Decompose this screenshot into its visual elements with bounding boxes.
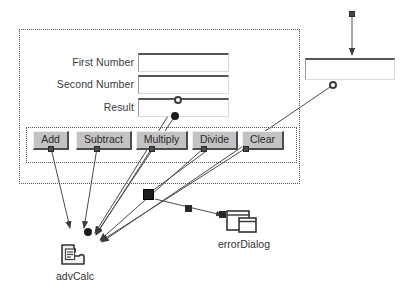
error-dialog-target-handle[interactable] [219, 211, 226, 218]
node-advcalc-label: advCalc [40, 270, 110, 282]
label-first-number: First Number [72, 56, 134, 68]
result-source-handle[interactable] [174, 96, 182, 104]
subtract-connector-handle[interactable] [94, 146, 100, 152]
error-field-target-handle[interactable] [349, 11, 355, 17]
divide-button[interactable]: Divide [192, 131, 238, 150]
field-first-number[interactable] [138, 53, 229, 72]
node-errordialog[interactable] [226, 209, 258, 235]
node-advcalc[interactable] [60, 242, 86, 268]
error-wire-waypoint-handle[interactable] [185, 205, 192, 212]
multiply-connector-handle[interactable] [149, 146, 155, 152]
add-connector-handle[interactable] [48, 146, 54, 152]
clear-connector-handle[interactable] [243, 146, 249, 152]
multiply-event-handle[interactable] [171, 112, 179, 120]
error-message-field[interactable] [305, 58, 395, 80]
label-result: Result [104, 101, 134, 113]
node-errordialog-label: errorDialog [211, 238, 277, 250]
dialog-window-icon [226, 209, 258, 235]
divide-connector-handle[interactable] [201, 146, 207, 152]
error-field-source-handle[interactable] [329, 81, 337, 89]
field-result[interactable] [138, 98, 229, 117]
label-second-number: Second Number [57, 78, 134, 90]
field-second-number[interactable] [138, 75, 229, 94]
visual-designer-canvas[interactable]: First Number Second Number Result Add Su… [0, 0, 408, 303]
wire-waypoint-handle[interactable] [143, 189, 154, 200]
subtract-button[interactable]: Subtract [76, 131, 132, 150]
advcalc-target-handle[interactable] [84, 228, 92, 236]
multiply-button[interactable]: Multiply [136, 131, 188, 150]
bean-component-icon [60, 242, 86, 268]
